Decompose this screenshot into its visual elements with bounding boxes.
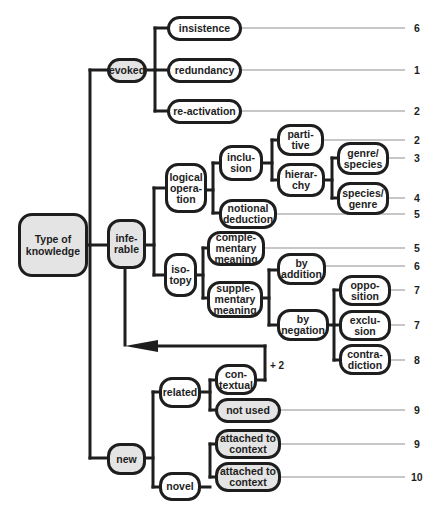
count-re-activation: 2 [414,105,420,117]
node-re-activation: re-activation [167,99,242,124]
node-exclusion: exclu- sion [339,310,391,341]
node-species-genre: species/ genre [337,182,389,215]
node-notional-deduction: notional deduction [219,199,277,229]
node-inferable: infe- rable [107,219,146,269]
count-genre-species: 3 [414,152,420,164]
count-exclusion: 7 [414,319,420,331]
node-partitive: parti- tive [277,124,324,156]
node-complementary-meaning: comple- mentary meaning [207,231,265,266]
count-species-genre: 4 [414,192,420,204]
count-notional-deduction: 5 [414,208,420,220]
node-type-of-knowledge: Type of knowledge [18,213,88,277]
count-redundancy: 1 [414,64,420,76]
count-by-addition: 6 [414,260,420,272]
node-insistence: insistence [167,16,242,41]
node-by-negation: by negation [277,309,329,341]
count-attached-to-context-1: 9 [414,438,420,450]
node-supplementary-meaning: supple- mentary meaning [207,281,263,318]
node-related: related [159,377,201,408]
node-hierarchy: hierar- chy [277,163,325,197]
count-complementary-meaning: 5 [414,242,420,254]
knowledge-type-diagram: Type of knowledge evoked insistence redu… [0,0,448,506]
count-not-used: 9 [414,404,420,416]
node-isotopy: iso- topy [164,253,197,297]
node-new: new [107,443,146,475]
node-contextual: con- textual [215,364,257,395]
node-contradiction: contra- diction [339,344,391,375]
arrow-head-icon [125,340,158,352]
node-attached-to-context-2: attached to context [215,462,281,492]
node-inclusion: inclu- sion [219,145,263,181]
feedback-label: + 2 [270,360,284,371]
count-contradiction: 8 [414,354,420,366]
count-opposition: 7 [414,284,420,296]
node-novel: novel [159,472,201,501]
count-insistence: 6 [414,22,420,34]
node-opposition: oppo- sition [339,275,391,306]
node-evoked: evoked [107,58,147,83]
node-not-used: not used [215,398,281,423]
count-attached-to-context-2: 10 [411,471,423,483]
node-logical-operation: logical opera- tion [165,163,207,213]
node-attached-to-context-1: attached to context [215,429,281,459]
node-by-addition: by addition [277,253,326,285]
node-redundancy: redundancy [167,58,242,83]
count-partitive: 2 [414,134,420,146]
node-genre-species: genre/ species [337,142,389,175]
